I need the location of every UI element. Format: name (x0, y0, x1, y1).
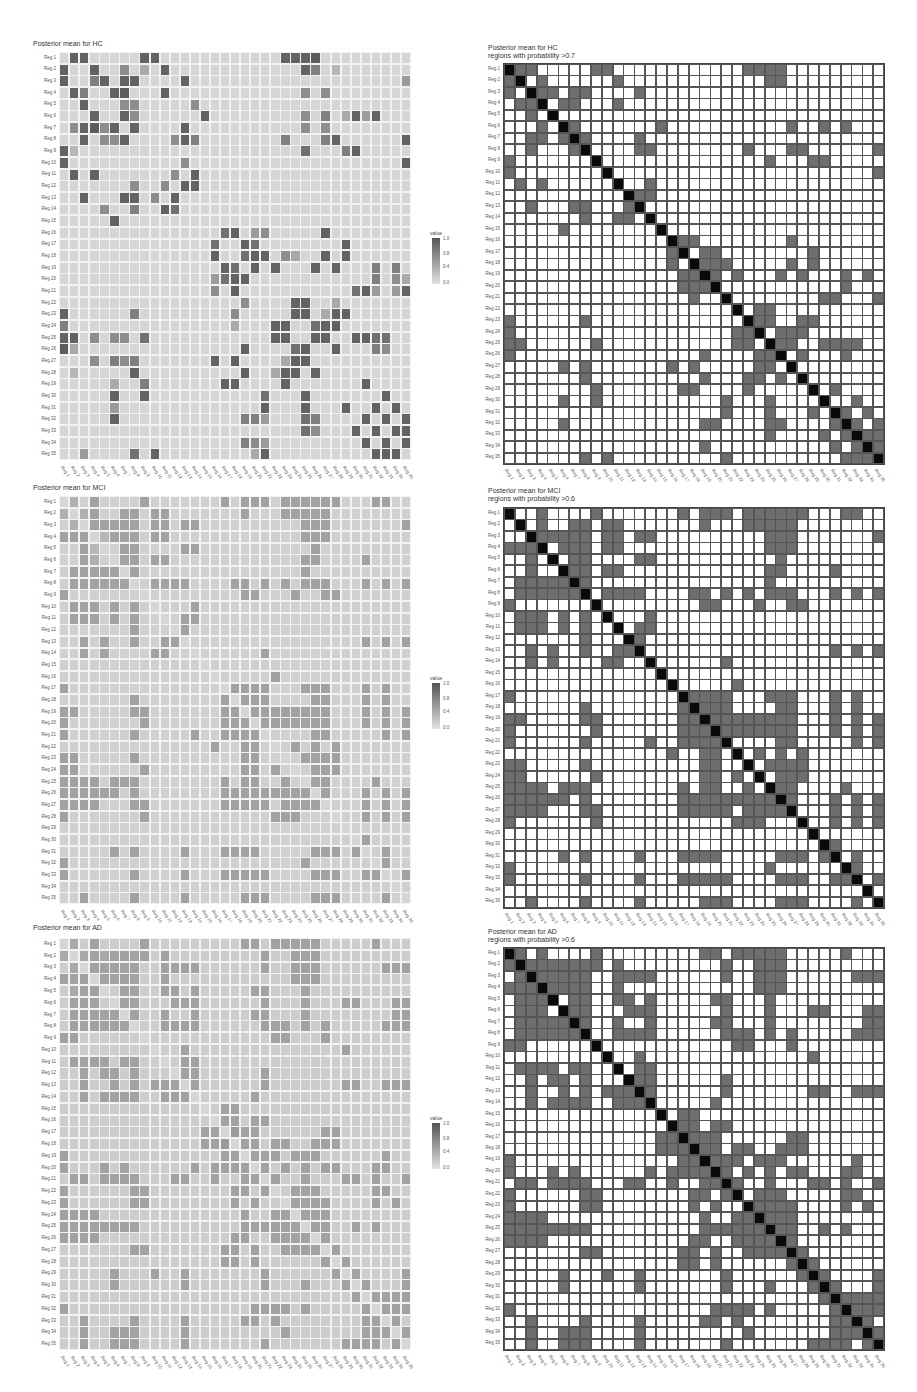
matrix-cell (220, 1338, 230, 1350)
matrix-cell (786, 828, 797, 840)
matrix-cell (602, 1063, 613, 1075)
matrix-cell (689, 441, 700, 453)
matrix-cell (841, 1120, 852, 1132)
y-axis-label: Reg 17 (474, 1134, 500, 1139)
matrix-cell (808, 1247, 819, 1259)
matrix-cell (841, 994, 852, 1006)
matrix-cell (300, 496, 310, 508)
matrix-cell (537, 645, 548, 657)
matrix-cell (613, 1270, 624, 1282)
matrix-cell (667, 611, 678, 623)
matrix-cell (160, 694, 170, 706)
matrix-cell (558, 645, 569, 657)
matrix-cell (190, 169, 200, 181)
matrix-cell (765, 1040, 776, 1052)
matrix-cell (873, 1270, 884, 1282)
matrix-cell (170, 589, 180, 601)
matrix-cell (873, 1166, 884, 1178)
matrix-cell (526, 554, 537, 566)
matrix-cell (160, 99, 170, 111)
matrix-cell (515, 828, 526, 840)
matrix-cell (119, 215, 129, 227)
matrix-cell (667, 588, 678, 600)
matrix-cell (99, 659, 109, 671)
matrix-cell (721, 1247, 732, 1259)
matrix-cell (109, 1044, 119, 1056)
matrix-cell (743, 679, 754, 691)
matrix-cell (537, 577, 548, 589)
matrix-cell (754, 1109, 765, 1121)
matrix-cell (190, 1126, 200, 1138)
matrix-cell (667, 350, 678, 362)
matrix-cell (220, 1091, 230, 1103)
matrix-cell (721, 1086, 732, 1098)
matrix-cell (786, 144, 797, 156)
matrix-cell (851, 1143, 862, 1155)
matrix-cell (623, 1316, 634, 1328)
matrix-cell (580, 948, 591, 960)
y-axis-label: Reg 12 (30, 1070, 56, 1075)
matrix-cell (873, 258, 884, 270)
matrix-cell (667, 361, 678, 373)
matrix-cell (210, 192, 220, 204)
matrix-cell (220, 1268, 230, 1280)
legend-title: value (430, 1115, 442, 1121)
matrix-cell (580, 971, 591, 983)
matrix-cell (190, 343, 200, 355)
matrix-cell (667, 155, 678, 167)
matrix-cell (819, 588, 830, 600)
matrix-cell (547, 1293, 558, 1305)
matrix-cell (678, 794, 689, 806)
matrix-cell (150, 1126, 160, 1138)
y-axis-label: Reg 6 (474, 1007, 500, 1012)
matrix-cell (580, 519, 591, 531)
matrix-cell (710, 971, 721, 983)
matrix-cell (119, 413, 129, 425)
matrix-cell (504, 725, 515, 737)
matrix-cell (732, 281, 743, 293)
matrix-cell (210, 1150, 220, 1162)
matrix-cell (623, 599, 634, 611)
matrix-cell (170, 752, 180, 764)
matrix-cell (300, 892, 310, 904)
matrix-cell (59, 659, 69, 671)
matrix-cell (160, 973, 170, 985)
matrix-cell (371, 752, 381, 764)
matrix-cell (808, 235, 819, 247)
matrix-cell (797, 948, 808, 960)
matrix-cell (547, 247, 558, 259)
matrix-cell (526, 828, 537, 840)
matrix-cell (200, 566, 210, 578)
matrix-cell (381, 297, 391, 309)
matrix-cell (381, 239, 391, 251)
matrix-cell (602, 645, 613, 657)
matrix-cell (401, 1315, 411, 1327)
matrix-cell (569, 418, 580, 430)
matrix-cell (210, 1056, 220, 1068)
matrix-cell (99, 648, 109, 660)
matrix-cell (280, 402, 290, 414)
matrix-cell (526, 1109, 537, 1121)
matrix-cell (240, 1185, 250, 1197)
matrix-cell (515, 1086, 526, 1098)
matrix-cell (160, 706, 170, 718)
matrix-cell (775, 519, 786, 531)
matrix-cell (558, 144, 569, 156)
matrix-cell (230, 1303, 240, 1315)
matrix-cell (710, 577, 721, 589)
matrix-cell (391, 320, 401, 332)
matrix-cell (743, 1109, 754, 1121)
matrix-cell (280, 425, 290, 437)
matrix-cell (280, 308, 290, 320)
matrix-cell (371, 1232, 381, 1244)
matrix-cell (873, 407, 884, 419)
y-axis-label: Reg 9 (474, 601, 500, 606)
matrix-cell (569, 258, 580, 270)
matrix-cell (59, 1138, 69, 1150)
matrix-cell (699, 1063, 710, 1075)
matrix-cell (765, 714, 776, 726)
matrix-cell (862, 1086, 873, 1098)
matrix-cell (732, 508, 743, 520)
matrix-cell (210, 437, 220, 449)
matrix-cell (180, 519, 190, 531)
